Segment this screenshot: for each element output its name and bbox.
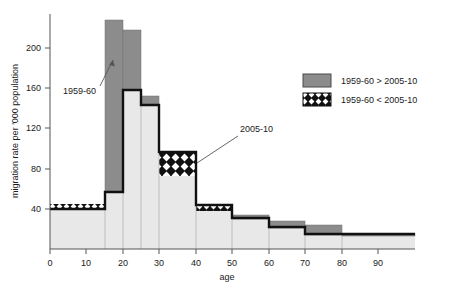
legend-swatch-checkered — [303, 93, 331, 106]
bar-2005-10-40-50 — [196, 205, 232, 249]
x-tick-label-40: 40 — [191, 258, 201, 268]
excess-15-20 — [105, 20, 123, 192]
bar-2005-10-70-80 — [305, 234, 342, 249]
x-tick-label-20: 20 — [118, 258, 128, 268]
y-tick-label-160: 160 — [26, 83, 41, 93]
excess-25-30 — [141, 96, 159, 105]
y-tick-label-40: 40 — [31, 204, 41, 214]
excess-20-25 — [123, 30, 141, 90]
x-tick-label-70: 70 — [300, 258, 310, 268]
bar-2005-10-0-15 — [50, 209, 105, 249]
x-tick-label-30: 30 — [154, 258, 164, 268]
migration-rate-chart: 200 160 120 80 40 0 10 — [0, 0, 456, 292]
bar-2005-10-60-70 — [269, 227, 305, 249]
y-axis-title: migration rate per '000 population — [10, 64, 20, 198]
x-tick-label-0: 0 — [47, 258, 52, 268]
x-tick-label-60: 60 — [264, 258, 274, 268]
annotation-label-1959-60: 1959-60 — [63, 86, 96, 96]
x-tick-label-10: 10 — [81, 258, 91, 268]
y-tick-label-200: 200 — [26, 43, 41, 53]
y-tick-label-120: 120 — [26, 123, 41, 133]
bar-2005-10-50-60 — [232, 218, 269, 249]
legend-swatch-gray — [303, 74, 331, 87]
annotation-label-2005-10: 2005-10 — [240, 124, 273, 134]
y-tick-label-80: 80 — [31, 164, 41, 174]
legend-label-gray: 1959-60 > 2005-10 — [341, 76, 417, 86]
chart-canvas: 200 160 120 80 40 0 10 — [0, 0, 456, 292]
x-axis-title: age — [219, 272, 234, 282]
bar-2005-10-80-100 — [342, 235, 415, 249]
x-tick-label-80: 80 — [337, 258, 347, 268]
bar-2005-10-15-20 — [105, 192, 123, 249]
legend-label-checkered: 1959-60 < 2005-10 — [341, 95, 417, 105]
bar-2005-10-20-25 — [123, 90, 141, 249]
checker-30-40 — [159, 152, 196, 176]
x-tick-label-50: 50 — [227, 258, 237, 268]
x-tick-label-90: 90 — [373, 258, 383, 268]
bar-2005-10-25-30 — [141, 105, 159, 249]
